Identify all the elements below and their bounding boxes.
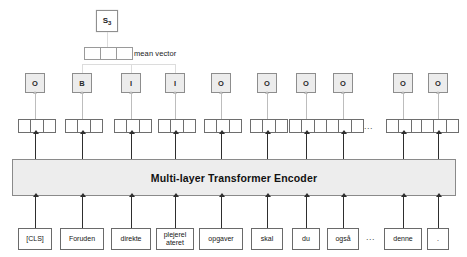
- encoder-output-arrow: [267, 133, 268, 159]
- encoder-output-arrow: [438, 133, 439, 159]
- token-vector-cell: [276, 120, 287, 132]
- token-vector-cell: [315, 120, 326, 132]
- tag-arrow: [403, 93, 404, 119]
- mean-vector-box: [84, 47, 133, 60]
- input-token-label: .: [437, 235, 439, 243]
- tag-box: O: [257, 73, 277, 93]
- token-vector-cell: [19, 120, 31, 132]
- encoder-output-arrow: [403, 133, 404, 159]
- encoder-input-arrow: [35, 196, 36, 228]
- input-token-box: denne: [384, 228, 422, 250]
- tag-label: O: [435, 79, 441, 88]
- mean-vector-bracket: [82, 64, 176, 65]
- token-vector-cell: [230, 120, 241, 132]
- tag-arrow: [175, 93, 176, 119]
- transformer-encoder-bar: Multi-layer Transformer Encoder: [12, 159, 456, 196]
- tag-box: O: [428, 73, 448, 93]
- input-token-box: opgaver: [199, 228, 243, 250]
- input-token-box: Foruden: [60, 228, 104, 250]
- token-vector-cell: [290, 120, 302, 132]
- encoder-input-arrow: [221, 196, 222, 228]
- tag-arrow: [131, 93, 132, 119]
- tag-arrow: [306, 93, 307, 119]
- input-token-label: plejerel ateret: [164, 231, 187, 247]
- input-token-box: direkte: [111, 228, 151, 250]
- tag-label: I: [174, 79, 176, 88]
- tag-box: I: [121, 73, 141, 93]
- input-token-label: også: [335, 235, 350, 243]
- word-row-ellipsis: ...: [366, 233, 375, 242]
- encoder-output-arrow: [343, 133, 344, 159]
- transformer-tagging-diagram: S3 mean vector Multi-layer Transformer E…: [0, 0, 467, 257]
- encoder-output-arrow: [175, 133, 176, 159]
- tag-arrow: [35, 93, 36, 119]
- encoder-output-arrow: [221, 133, 222, 159]
- input-token-label: skal: [261, 235, 273, 243]
- input-token-label: Foruden: [69, 235, 95, 243]
- token-vector-cell: [184, 120, 195, 132]
- token-vector-cell: [44, 120, 55, 132]
- input-token-label: du: [302, 235, 310, 243]
- encoder-label: Multi-layer Transformer Encoder: [151, 172, 317, 184]
- tag-arrow: [438, 93, 439, 119]
- encoder-output-arrow: [35, 133, 36, 159]
- tag-box: O: [393, 73, 413, 93]
- mean-vector-label: mean vector: [134, 49, 176, 58]
- encoder-output-arrow: [306, 133, 307, 159]
- encoder-input-arrow: [267, 196, 268, 228]
- mean-vector-branch-line: [82, 64, 83, 73]
- sentence-representation-box: S3: [96, 10, 118, 32]
- tag-box: O: [333, 73, 353, 93]
- input-token-box: skal: [251, 228, 283, 250]
- token-vector-cell: [159, 120, 171, 132]
- input-token-label: denne: [393, 235, 412, 243]
- mean-vector-branch-line: [175, 64, 176, 73]
- tag-label: O: [340, 79, 346, 88]
- input-token-box: [CLS]: [18, 228, 52, 250]
- token-vector-cell: [327, 120, 339, 132]
- token-vector-cell: [422, 120, 434, 132]
- mean-vector-cell: [85, 48, 101, 59]
- token-vector-cell: [91, 120, 102, 132]
- tag-box: I: [165, 73, 185, 93]
- input-token-label: direkte: [120, 235, 141, 243]
- encoder-input-arrow: [306, 196, 307, 228]
- encoder-input-arrow: [175, 196, 176, 228]
- encoder-input-arrow: [343, 196, 344, 228]
- input-token-box: du: [292, 228, 320, 250]
- encoder-output-arrow: [82, 133, 83, 159]
- tag-box: O: [296, 73, 316, 93]
- token-vector-cell: [115, 120, 127, 132]
- tag-label: B: [79, 79, 84, 88]
- token-vector-cell: [66, 120, 78, 132]
- tag-label: O: [400, 79, 406, 88]
- tag-label: I: [130, 79, 132, 88]
- tag-label: O: [264, 79, 270, 88]
- encoder-input-arrow: [82, 196, 83, 228]
- tag-box: O: [211, 73, 231, 93]
- tag-arrow: [267, 93, 268, 119]
- encoder-input-arrow: [403, 196, 404, 228]
- input-token-box: plejerel ateret: [156, 228, 194, 250]
- tag-label: O: [32, 79, 38, 88]
- token-vector-cell: [387, 120, 399, 132]
- sentence-mean-connector: [107, 32, 108, 47]
- tag-arrow: [221, 93, 222, 119]
- sentence-representation-label: S3: [103, 16, 112, 26]
- mean-vector-cell: [101, 48, 117, 59]
- input-token-box: også: [327, 228, 359, 250]
- mean-vector-cell: [117, 48, 132, 59]
- token-vector-cell: [447, 120, 458, 132]
- token-vector-cell: [205, 120, 217, 132]
- tag-box: B: [72, 73, 92, 93]
- token-vector-cell: [140, 120, 151, 132]
- vector-row-ellipsis: ...: [364, 122, 373, 131]
- mean-vector-branch-line: [131, 64, 132, 73]
- encoder-input-arrow: [438, 196, 439, 228]
- tag-arrow: [343, 93, 344, 119]
- token-vector-cell: [251, 120, 263, 132]
- encoder-output-arrow: [131, 133, 132, 159]
- input-token-label: opgaver: [208, 235, 233, 243]
- tag-arrow: [82, 93, 83, 119]
- tag-label: O: [303, 79, 309, 88]
